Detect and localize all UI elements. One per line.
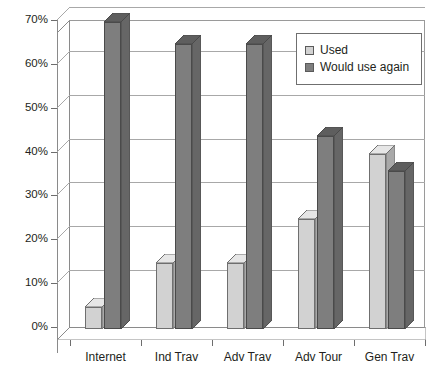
chart-title <box>0 0 440 3</box>
bar-would-use-again <box>104 22 121 329</box>
bar-top-face <box>369 145 396 155</box>
x-axis-tick <box>425 340 426 346</box>
x-axis-tick <box>70 340 71 346</box>
legend-swatch-used-icon <box>305 46 314 55</box>
y-axis-tick-label: 20% <box>6 232 48 244</box>
x-axis-tick-label: Adv Tour <box>283 350 354 364</box>
bar-top-face <box>104 13 131 23</box>
legend-item: Used <box>305 43 409 57</box>
y-axis-tick-label: 0% <box>6 320 48 332</box>
y-axis-depth-connector <box>57 51 71 65</box>
bar-side-face <box>334 127 343 329</box>
bar-would-use-again <box>175 44 192 329</box>
bar-side-face <box>121 13 130 329</box>
legend-label: Would use again <box>320 60 409 74</box>
y-axis-tick-label: 70% <box>6 13 48 25</box>
y-axis-tick-label: 40% <box>6 145 48 157</box>
bar-used <box>369 154 386 329</box>
x-axis-tick-label: Adv Trav <box>212 350 283 364</box>
y-axis-tick <box>51 327 57 328</box>
bar-front-face <box>104 22 121 329</box>
y-axis-depth-connector <box>57 7 71 21</box>
bar-front-face <box>175 44 192 329</box>
bar-top-face <box>388 162 415 172</box>
x-axis-tick-label: Gen Trav <box>354 350 425 364</box>
y-axis-tick-label: 30% <box>6 188 48 200</box>
y-axis-depth-connector <box>57 226 71 240</box>
x-axis-tick-label: Internet <box>70 350 141 364</box>
bar-front-face <box>298 219 315 329</box>
gridline <box>69 7 425 8</box>
bar-front-face <box>85 307 102 329</box>
x-axis-tick-label: Ind Trav <box>141 350 212 364</box>
bar-would-use-again <box>246 44 263 329</box>
bar-used <box>85 307 102 329</box>
y-axis-tick-label: 60% <box>6 57 48 69</box>
legend-item: Would use again <box>305 60 409 74</box>
y-axis-depth-connector <box>57 139 71 153</box>
x-axis-tick <box>283 340 284 346</box>
bar-side-face <box>192 35 201 329</box>
bar-used <box>227 263 244 329</box>
y-axis-tick-label: 10% <box>6 276 48 288</box>
bar-side-face <box>405 162 414 329</box>
bar-used <box>298 219 315 329</box>
chart-legend: Used Would use again <box>296 33 422 85</box>
bar-side-face <box>263 35 272 329</box>
legend-label: Used <box>320 43 348 57</box>
y-axis-depth-connector <box>57 95 71 109</box>
bar-front-face <box>246 44 263 329</box>
bar-front-face <box>156 263 173 329</box>
chart-container: 0%10%20%30%40%50%60%70% InternetInd Trav… <box>0 0 440 378</box>
bar-top-face <box>317 127 344 137</box>
bar-front-face <box>317 136 334 329</box>
bar-front-face <box>369 154 386 329</box>
legend-swatch-would-use-again-icon <box>305 63 314 72</box>
bar-would-use-again <box>388 171 405 329</box>
y-axis-depth-connector <box>57 182 71 196</box>
bar-front-face <box>227 263 244 329</box>
x-axis-tick <box>212 340 213 346</box>
bar-top-face <box>246 35 273 45</box>
bar-used <box>156 263 173 329</box>
bar-would-use-again <box>317 136 334 329</box>
x-axis-tick <box>141 340 142 346</box>
bar-top-face <box>175 35 202 45</box>
y-axis-depth-connector <box>57 270 71 284</box>
bar-front-face <box>388 171 405 329</box>
y-axis-tick-label: 50% <box>6 101 48 113</box>
x-axis-tick <box>354 340 355 346</box>
